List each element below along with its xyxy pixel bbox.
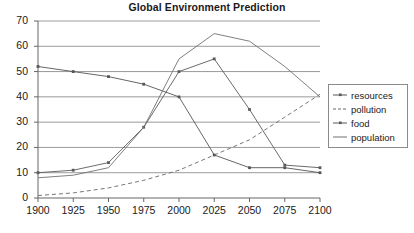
x-tick-label: 2100 xyxy=(300,204,340,216)
legend-item-population: population xyxy=(332,130,407,144)
series-marker-resources xyxy=(72,70,75,73)
legend-item-resources: resources xyxy=(332,88,407,102)
series-marker-food xyxy=(248,108,251,111)
series-marker-resources xyxy=(248,166,251,169)
y-tick-label: 60 xyxy=(6,39,28,51)
x-tick-label: 1925 xyxy=(53,204,93,216)
y-tick-label: 40 xyxy=(6,90,28,102)
chart-container: Global Environment Prediction 0102030405… xyxy=(0,0,414,233)
legend-label: pollution xyxy=(351,104,386,115)
series-marker-resources xyxy=(37,65,40,68)
data-series-group xyxy=(37,34,322,196)
x-tick-label: 1975 xyxy=(124,204,164,216)
series-marker-food xyxy=(37,171,40,174)
chart-legend: resourcespollutionfoodpopulation xyxy=(328,84,408,148)
legend-label: food xyxy=(351,118,370,129)
series-line-resources xyxy=(38,67,320,173)
y-tick-label: 70 xyxy=(6,14,28,26)
series-marker-resources xyxy=(283,166,286,169)
x-tick-label: 2075 xyxy=(265,204,305,216)
x-tick-label: 2000 xyxy=(159,204,199,216)
series-marker-food xyxy=(178,70,181,73)
series-line-food xyxy=(38,59,320,173)
series-line-population xyxy=(38,34,320,178)
legend-swatch-resources xyxy=(332,90,348,100)
series-marker-food xyxy=(72,169,75,172)
x-tick-label: 2050 xyxy=(230,204,270,216)
series-marker-food xyxy=(107,161,110,164)
series-marker-food xyxy=(283,164,286,167)
y-tick-label: 20 xyxy=(6,140,28,152)
y-tick-label: 10 xyxy=(6,166,28,178)
x-tick-label: 2025 xyxy=(194,204,234,216)
series-marker-resources xyxy=(319,171,322,174)
y-tick-label: 50 xyxy=(6,65,28,77)
x-tick-label: 1950 xyxy=(89,204,129,216)
x-tick-label: 1900 xyxy=(18,204,58,216)
x-tick-marks-group xyxy=(38,198,320,202)
legend-item-pollution: pollution xyxy=(332,102,407,116)
legend-swatch-food xyxy=(332,118,348,128)
y-tick-label: 0 xyxy=(6,191,28,203)
series-marker-resources xyxy=(107,75,110,78)
axes-group xyxy=(38,21,320,198)
legend-item-food: food xyxy=(332,116,407,130)
legend-label: resources xyxy=(351,90,393,101)
legend-label: population xyxy=(351,132,395,143)
legend-swatch-pollution xyxy=(332,104,348,114)
series-marker-resources xyxy=(142,83,145,86)
series-marker-food xyxy=(319,166,322,169)
y-tick-label: 30 xyxy=(6,115,28,127)
series-line-pollution xyxy=(38,94,320,195)
series-marker-food xyxy=(213,58,216,61)
legend-swatch-population xyxy=(332,132,348,142)
series-marker-resources xyxy=(178,96,181,99)
